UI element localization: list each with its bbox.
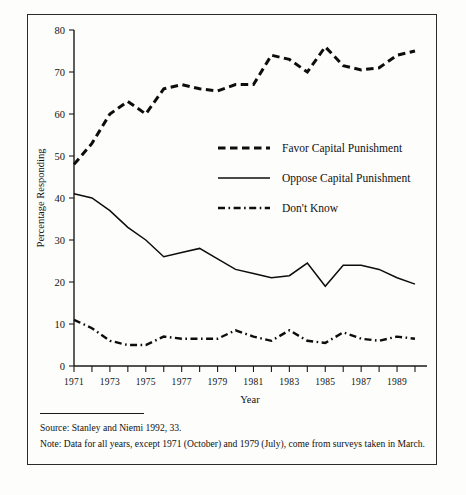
chart-legend: Favor Capital PunishmentOppose Capital P… <box>218 142 411 214</box>
y-tick-label: 30 <box>55 235 66 246</box>
notes-divider-rule <box>40 413 144 414</box>
line-chart-svg: 01020304050607080 Percentage Responding … <box>28 15 438 410</box>
y-axis: 01020304050607080 Percentage Responding <box>35 25 74 372</box>
y-tick-label: 60 <box>55 109 66 120</box>
y-tick-label: 40 <box>55 193 66 204</box>
y-tick-label: 80 <box>55 25 66 36</box>
x-axis: 1971197319751977197919811983198519871989… <box>64 366 427 405</box>
x-tick-label: 1973 <box>100 377 120 387</box>
y-tick-label: 10 <box>55 319 66 330</box>
legend-label-0: Favor Capital Punishment <box>282 142 403 155</box>
x-tick-label: 1975 <box>136 377 156 387</box>
x-axis-tick-labels: 1971197319751977197919811983198519871989 <box>64 377 407 387</box>
y-axis-title: Percentage Responding <box>35 148 46 248</box>
x-tick-label: 1983 <box>279 377 299 387</box>
figure-frame: 01020304050607080 Percentage Responding … <box>27 14 437 465</box>
x-tick-label: 1981 <box>243 377 263 387</box>
legend-label-2: Don't Know <box>282 202 339 214</box>
source-line: Source: Stanley and Niemi 1992, 33. <box>40 421 426 435</box>
y-tick-label: 0 <box>60 361 65 372</box>
x-tick-label: 1977 <box>172 377 192 387</box>
legend-label-1: Oppose Capital Punishment <box>282 172 411 185</box>
y-tick-label: 20 <box>55 277 66 288</box>
y-axis-ticks <box>69 30 74 366</box>
y-tick-label: 50 <box>55 151 66 162</box>
note-line: Note: Data for all years, except 1971 (O… <box>40 437 426 451</box>
x-tick-label: 1987 <box>351 377 371 387</box>
series-line-2 <box>74 320 415 345</box>
figure-notes: Source: Stanley and Niemi 1992, 33. Note… <box>28 413 438 452</box>
y-axis-tick-labels: 01020304050607080 <box>55 25 66 372</box>
x-tick-label: 1985 <box>315 377 335 387</box>
chart-plot-area: 01020304050607080 Percentage Responding … <box>28 15 438 410</box>
x-tick-label: 1989 <box>387 377 407 387</box>
x-tick-label: 1979 <box>207 377 227 387</box>
y-tick-label: 70 <box>55 67 66 78</box>
x-axis-ticks <box>74 366 415 372</box>
data-series-group <box>74 47 415 345</box>
x-tick-label: 1971 <box>64 377 84 387</box>
x-axis-title: Year <box>240 394 260 405</box>
